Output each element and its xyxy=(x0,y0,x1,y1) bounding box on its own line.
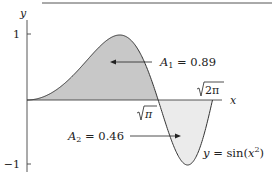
svg-text:A2 = 0.46: A2 = 0.46 xyxy=(67,129,124,144)
svg-text:A1 = 0.89: A1 = 0.89 xyxy=(159,55,216,70)
y-axis-label: y xyxy=(19,7,27,20)
y-tick-label-1: 1 xyxy=(13,28,20,41)
sqrt-pi-label: π xyxy=(137,106,157,121)
svg-text:π: π xyxy=(144,108,153,121)
chart-canvas: y x 1 −1 π 2π A1 = 0.89 A2 = 0.46 y = si… xyxy=(0,0,274,179)
x-axis-label: x xyxy=(230,94,237,107)
area-a1 xyxy=(27,35,158,100)
function-label: y = sin(x2) xyxy=(202,145,264,160)
svg-text:2π: 2π xyxy=(205,84,219,97)
sqrt-2pi-label: 2π xyxy=(197,82,224,97)
y-tick-label-neg1: −1 xyxy=(4,158,20,171)
annotation-a2: A2 = 0.46 xyxy=(67,129,181,144)
